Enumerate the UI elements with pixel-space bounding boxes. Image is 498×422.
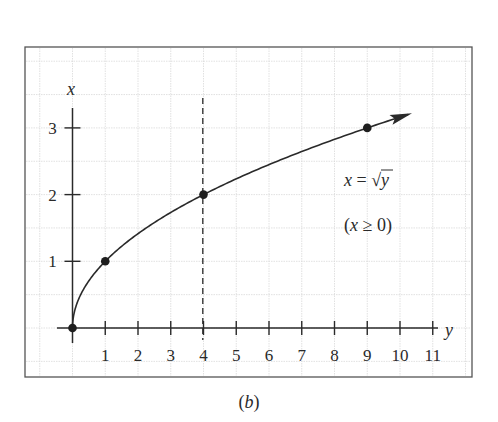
figure: 1234567891011 123 x y x = √y (x ≥ 0) (b) (0, 0, 498, 422)
svg-text:x = √y: x = √y (343, 170, 389, 190)
vertical-axis-tick-labels: 123 (48, 119, 57, 271)
sqrt-symbol: √ (371, 170, 381, 190)
x-tick-label: 1 (101, 346, 110, 365)
data-point (68, 324, 77, 333)
x-tick-label: 9 (363, 346, 372, 365)
x-tick-label: 7 (298, 346, 307, 365)
vertical-axis-name: x (66, 79, 75, 99)
horizontal-axis-tick-labels: 1234567891011 (101, 346, 441, 365)
x-tick-label: 3 (167, 346, 176, 365)
figure-caption: (b) (239, 392, 260, 413)
x-tick-label: 6 (265, 346, 274, 365)
y-tick-label: 2 (48, 186, 57, 205)
data-point (363, 124, 372, 133)
y-tick-label: 3 (48, 119, 57, 138)
horizontal-axis-name: y (443, 320, 453, 340)
x-tick-label: 2 (134, 346, 143, 365)
y-tick-label: 1 (48, 252, 57, 271)
data-point (101, 257, 110, 266)
chart-svg: 1234567891011 123 x y x = √y (x ≥ 0) (b) (0, 0, 498, 422)
equation-annotation: x = √y (343, 170, 393, 190)
x-tick-label: 5 (232, 346, 241, 365)
equation-radicand: y (379, 170, 389, 190)
x-tick-label: 4 (199, 346, 208, 365)
equation-lhs: x (343, 170, 352, 190)
data-point (199, 190, 208, 199)
x-tick-label: 10 (392, 346, 409, 365)
x-tick-label: 8 (330, 346, 339, 365)
condition-annotation: (x ≥ 0) (344, 215, 392, 236)
x-tick-label: 11 (425, 346, 441, 365)
background-grid (26, 48, 471, 376)
